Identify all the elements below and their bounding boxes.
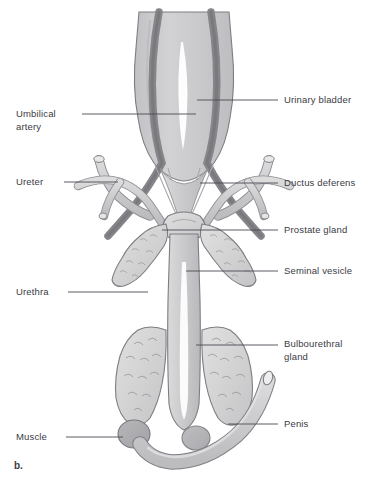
label-muscle: Muscle: [16, 431, 47, 444]
seminal-vesicle-left-shape: [112, 224, 168, 286]
label-ureter: Ureter: [16, 176, 43, 189]
label-prostate-gland: Prostate gland: [284, 224, 347, 237]
label-penis: Penis: [284, 418, 309, 431]
muscle-shape: [118, 420, 210, 450]
urethra-shape: [168, 234, 201, 430]
anatomy-illustration: [0, 0, 377, 498]
label-ductus-deferens: Ductus deferens: [284, 177, 355, 190]
label-bulbourethral-gland: Bulbourethral gland: [284, 338, 342, 363]
seminal-vesicle-right-shape: [200, 224, 256, 286]
label-urethra: Urethra: [16, 286, 49, 299]
label-seminal-vesicle: Seminal vesicle: [284, 265, 352, 278]
bulbourethral-gland-left-shape: [116, 327, 167, 425]
label-umbilical-artery: Umbilical artery: [16, 108, 56, 133]
umbilical-artery-left-shape: [108, 12, 162, 236]
anatomy-figure: Umbilical arteryUreterUrethraMuscle Urin…: [0, 0, 377, 498]
label-urinary-bladder: Urinary bladder: [284, 94, 351, 107]
figure-caption: b.: [14, 460, 23, 471]
bulbourethral-gland-right-shape: [202, 327, 253, 425]
